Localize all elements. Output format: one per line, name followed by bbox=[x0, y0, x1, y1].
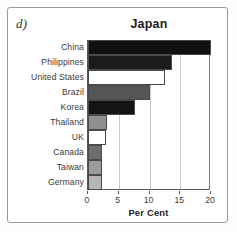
category-label-united-states: United States bbox=[0, 72, 84, 82]
bar-row bbox=[88, 145, 211, 160]
bar-row bbox=[88, 40, 211, 55]
x-tick-mark-20 bbox=[210, 191, 211, 194]
bar-row bbox=[88, 100, 211, 115]
category-label-uk: UK bbox=[0, 132, 84, 142]
bar-series bbox=[88, 40, 209, 189]
bar-row bbox=[88, 115, 211, 130]
category-label-brazil: Brazil bbox=[0, 87, 84, 97]
bar-thailand bbox=[88, 115, 107, 130]
x-tick-label-0: 0 bbox=[85, 195, 90, 205]
x-tick-mark-10 bbox=[149, 191, 150, 194]
bar-row bbox=[88, 160, 211, 175]
bar-row bbox=[88, 85, 211, 100]
x-tick-label-20: 20 bbox=[205, 195, 215, 205]
bar-germany bbox=[88, 175, 102, 190]
bar-philippines bbox=[88, 55, 172, 70]
chart-title: Japan bbox=[88, 17, 210, 31]
bar-row bbox=[88, 175, 211, 190]
bar-united-states bbox=[88, 70, 165, 85]
x-tick-label-10: 10 bbox=[144, 195, 154, 205]
panel-letter: d) bbox=[16, 16, 27, 32]
plot-area bbox=[87, 40, 210, 190]
bar-brazil bbox=[88, 85, 150, 100]
category-label-korea: Korea bbox=[0, 102, 84, 112]
bar-canada bbox=[88, 145, 102, 160]
bar-china bbox=[88, 40, 211, 55]
bar-korea bbox=[88, 100, 135, 115]
bar-taiwan bbox=[88, 160, 102, 175]
bar-row bbox=[88, 70, 211, 85]
category-label-thailand: Thailand bbox=[0, 117, 84, 127]
x-tick-label-15: 15 bbox=[174, 195, 184, 205]
x-axis-ticks: 05101520 bbox=[87, 191, 210, 207]
figure-panel: d) Japan ChinaPhilippinesUnited StatesBr… bbox=[0, 0, 237, 232]
category-label-taiwan: Taiwan bbox=[0, 162, 84, 172]
category-axis-labels: ChinaPhilippinesUnited StatesBrazilKorea… bbox=[0, 40, 84, 190]
category-label-canada: Canada bbox=[0, 147, 84, 157]
category-label-china: China bbox=[0, 42, 84, 52]
category-label-germany: Germany bbox=[0, 177, 84, 187]
x-axis-title: Per Cent bbox=[87, 207, 210, 218]
x-tick-mark-0 bbox=[87, 191, 88, 194]
bar-row bbox=[88, 55, 211, 70]
category-label-philippines: Philippines bbox=[0, 57, 84, 67]
bar-row bbox=[88, 130, 211, 145]
x-tick-mark-15 bbox=[179, 191, 180, 194]
x-tick-mark-5 bbox=[118, 191, 119, 194]
bar-uk bbox=[88, 130, 106, 145]
x-tick-label-5: 5 bbox=[115, 195, 120, 205]
